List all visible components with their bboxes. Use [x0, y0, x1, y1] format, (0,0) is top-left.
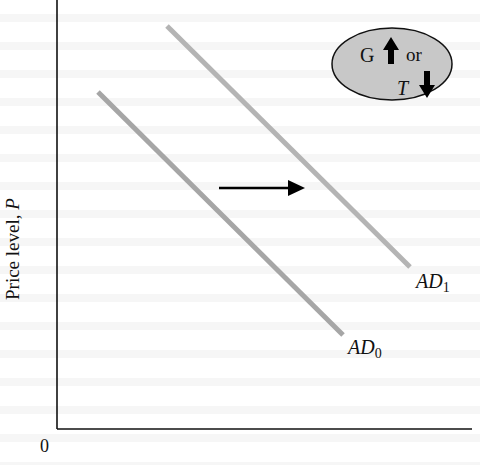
- ad1-label-name: AD: [416, 270, 443, 292]
- ad1-label: AD1: [416, 270, 450, 296]
- origin-label: 0: [40, 436, 49, 457]
- bubble-t-label: T: [397, 77, 408, 100]
- shift-right-arrow-icon: [219, 180, 305, 196]
- ad0-curve: [98, 92, 343, 335]
- ad0-label: AD0: [348, 336, 382, 362]
- ad0-label-name: AD: [348, 336, 375, 358]
- y-axis-label-text: Price level,: [2, 210, 23, 300]
- y-axis-label: Price level, P: [2, 198, 24, 300]
- ad0-label-subscript: 0: [375, 346, 382, 361]
- diagram-canvas: [0, 0, 480, 465]
- bubble-or-label: or: [406, 44, 422, 66]
- ad1-label-subscript: 1: [443, 280, 450, 295]
- y-axis-label-variable: P: [2, 198, 23, 210]
- bubble-g-label: G: [360, 44, 374, 67]
